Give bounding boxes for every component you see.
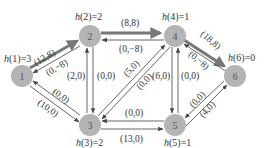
edge-label-1-3: (10,0) — [35, 97, 60, 119]
potential-label-1: h(1)=3 — [4, 53, 31, 65]
potential-label-4: h(4)=1 — [162, 11, 189, 23]
node-2-label: 2 — [88, 31, 93, 42]
edge-label-2-3: (2,0) — [67, 71, 85, 82]
potential-label-6: h(6)=0 — [228, 52, 255, 64]
edge-label-4-6: (18,8) — [198, 29, 223, 52]
node-4-label: 4 — [173, 31, 178, 42]
potential-label-3: h(3)=2 — [76, 137, 103, 148]
node-1: 1 — [11, 65, 33, 87]
potential-label-2: h(2)=2 — [75, 11, 102, 23]
node-6: 6 — [224, 65, 246, 87]
flow-network-diagram: (12,8) (0,−8) (10,0) (0,0) (8,8) (0,−8) … — [0, 0, 266, 148]
edge-label-6-4: (0,−8) — [186, 49, 211, 73]
edge-label-5-4: (0,0) — [181, 71, 199, 82]
edge-label-5-3: (0,0) — [125, 108, 143, 119]
node-1-label: 1 — [20, 71, 25, 82]
edge-label-4-5: (6,0) — [152, 71, 170, 82]
node-6-label: 6 — [233, 71, 238, 82]
node-3-label: 3 — [88, 120, 93, 131]
node-5-label: 5 — [173, 120, 178, 131]
potential-label-5: h(5)=1 — [164, 137, 191, 148]
edge-label-3-5: (13,0) — [120, 134, 143, 145]
node-5: 5 — [164, 114, 186, 136]
node-4: 4 — [164, 25, 186, 47]
edge-label-2-4: (8,8) — [121, 18, 139, 29]
edge-label-4-2: (0,−8) — [119, 44, 143, 55]
node-3: 3 — [79, 114, 101, 136]
edge-label-3-2: (0,0) — [97, 71, 115, 82]
edge-label-3-4: (5,0) — [121, 58, 142, 79]
node-2: 2 — [79, 25, 101, 47]
